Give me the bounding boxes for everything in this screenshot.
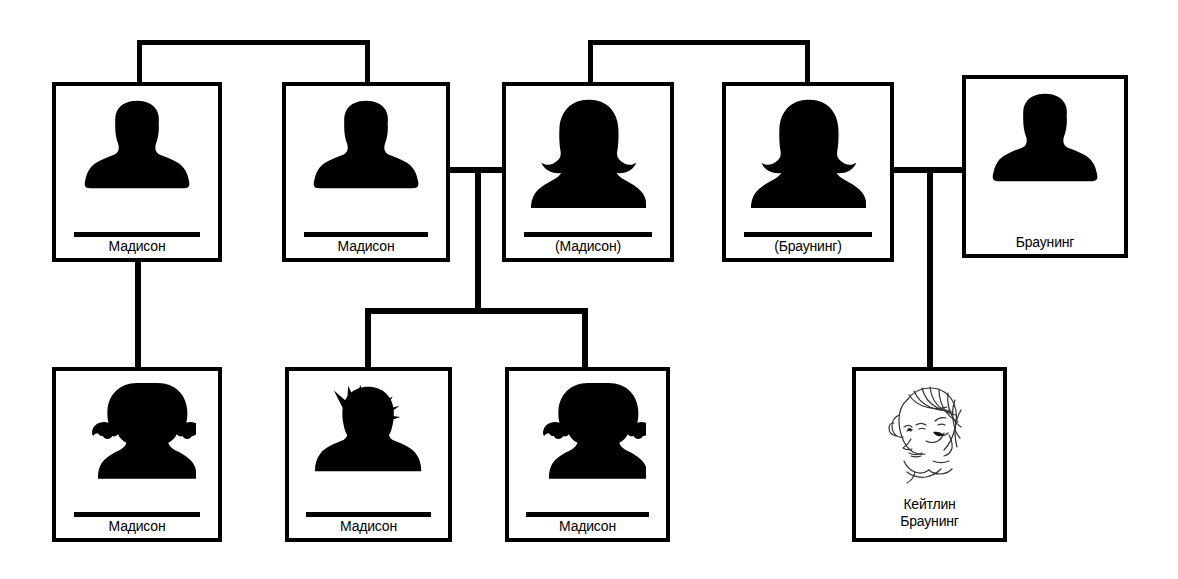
- marriage-drop-p2-p3: [475, 167, 481, 312]
- person-box-p2[interactable]: Мадисон: [282, 82, 450, 262]
- man-silhouette-icon: [989, 89, 1101, 201]
- name-underline: [744, 232, 872, 237]
- children-bar-p2-p3: [365, 308, 587, 314]
- children-drop-p8: [582, 308, 588, 370]
- person-box-p7[interactable]: Мадисон: [285, 367, 452, 542]
- marriage-drop-p4-p5: [927, 167, 933, 369]
- person-box-p4[interactable]: (Браунинг): [722, 82, 894, 262]
- sibling-drop-p3: [588, 40, 593, 85]
- person-name: Мадисон: [338, 239, 395, 258]
- sibling-bar-p1-p2: [137, 40, 370, 45]
- girl-pigtails-silhouette-icon: [529, 381, 647, 487]
- sibling-bar-p3-p4: [588, 40, 810, 45]
- sibling-drop-p4: [805, 40, 810, 85]
- woman-silhouette-icon: [530, 96, 646, 208]
- name-underline: [304, 232, 429, 237]
- person-name: (Мадисон): [555, 239, 621, 258]
- name-underline: [74, 512, 200, 517]
- family-tree-diagram: Мадисон Мадисон (Мадисон) (Браунинг) Бра…: [0, 0, 1178, 579]
- avatar-p5: [966, 79, 1124, 254]
- boy-spiky-silhouette-icon: [313, 381, 423, 489]
- person-name: Мадисон: [109, 519, 166, 538]
- person-name: Мадисон: [109, 239, 166, 258]
- person-name: (Браунинг): [774, 239, 841, 258]
- woman-silhouette-icon: [750, 96, 866, 208]
- children-drop-p7: [365, 308, 371, 370]
- person-name: Браунинг: [1016, 235, 1074, 254]
- person-box-p1[interactable]: Мадисон: [52, 82, 222, 262]
- person-box-p8[interactable]: Мадисон: [505, 367, 670, 542]
- person-box-p5[interactable]: Браунинг: [962, 75, 1128, 258]
- sibling-drop-p1: [137, 40, 142, 85]
- name-underline: [306, 512, 430, 517]
- man-silhouette-icon: [310, 96, 422, 208]
- name-underline: [526, 512, 648, 517]
- sibling-drop-p2: [365, 40, 370, 85]
- person-box-p9[interactable]: Кейтлин Браунинг: [852, 367, 1007, 542]
- man-silhouette-icon: [81, 96, 193, 208]
- name-underline: [524, 232, 652, 237]
- name-underline: [74, 232, 200, 237]
- person-box-p3[interactable]: (Мадисон): [502, 82, 674, 262]
- person-name: Мадисон: [340, 519, 397, 538]
- person-name: Мадисон: [559, 519, 616, 538]
- person-name: Кейтлин Браунинг: [900, 496, 958, 538]
- avatar-p9: [856, 377, 1003, 489]
- caitlin-portrait-sketch: [878, 377, 982, 489]
- child-drop-p1-to-p6: [135, 260, 141, 370]
- person-box-p6[interactable]: Мадисон: [52, 367, 222, 542]
- girl-pigtails-silhouette-icon: [78, 381, 196, 487]
